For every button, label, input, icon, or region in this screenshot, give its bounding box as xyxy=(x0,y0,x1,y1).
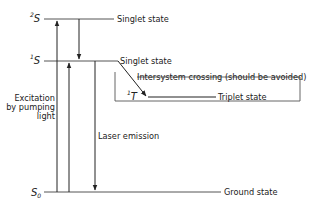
isc-label: Intersystem crossing (should be avoided) xyxy=(137,72,306,82)
energy-level-diagram: 2S Singlet state 1S Singlet state Inters… xyxy=(0,0,311,206)
level-s2: 2S Singlet state xyxy=(30,11,169,24)
level-s0-label: Ground state xyxy=(224,187,277,197)
level-s1-label: Singlet state xyxy=(120,56,172,66)
level-s1: 1S Singlet state xyxy=(30,53,172,66)
level-s2-symbol: 2S xyxy=(30,11,41,24)
laser-emission-label: Laser emission xyxy=(98,131,159,141)
level-s2-label: Singlet state xyxy=(117,14,169,24)
level-t1: 1T Triplet state xyxy=(127,89,267,102)
svg-text:light: light xyxy=(37,111,56,121)
level-s0-symbol: S0 xyxy=(31,187,41,199)
intersystem-crossing-box: Intersystem crossing (should be avoided) xyxy=(115,61,306,101)
level-t1-symbol: 1T xyxy=(127,89,138,102)
excitation-label: Excitation by pumping light xyxy=(6,93,56,121)
level-s1-symbol: 1S xyxy=(30,53,41,66)
level-t1-label: Triplet state xyxy=(217,92,267,102)
level-s0: S0 Ground state xyxy=(31,187,277,199)
